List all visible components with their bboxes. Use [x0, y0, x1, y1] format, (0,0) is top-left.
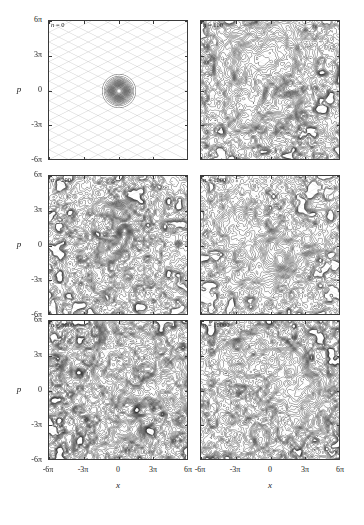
tick-mark — [201, 312, 202, 315]
tick-mark — [153, 457, 154, 460]
tick-mark — [271, 312, 272, 315]
panel-label-value: 200 — [61, 176, 71, 183]
tick-mark — [49, 280, 52, 281]
x-tick-label: 6π — [325, 465, 355, 474]
panel-label-value: 1000 — [213, 176, 226, 183]
tick-mark — [305, 157, 306, 160]
contour-plot-canvas — [49, 176, 188, 315]
tick-mark — [185, 211, 188, 212]
y-axis-label: p — [10, 239, 28, 249]
x-tick-label: 3π — [290, 465, 320, 474]
panel-n-100: n = 100 — [200, 20, 340, 160]
tick-mark — [119, 457, 120, 460]
tick-mark — [201, 157, 202, 160]
tick-mark — [201, 457, 202, 460]
tick-mark — [201, 211, 204, 212]
tick-mark — [84, 176, 85, 179]
tick-mark — [337, 391, 340, 392]
tick-mark — [119, 321, 120, 324]
tick-mark — [236, 21, 237, 24]
tick-mark — [49, 356, 52, 357]
tick-mark — [84, 457, 85, 460]
tick-mark — [236, 176, 237, 179]
tick-mark — [337, 176, 340, 177]
tick-mark — [185, 56, 188, 57]
tick-mark — [201, 56, 204, 57]
tick-mark — [201, 280, 204, 281]
tick-mark — [84, 21, 85, 24]
tick-mark — [271, 321, 272, 324]
y-tick-label: 6π — [8, 15, 42, 24]
x-tick-label: 0 — [255, 465, 285, 474]
tick-mark — [185, 91, 188, 92]
tick-mark — [337, 280, 340, 281]
tick-mark — [337, 246, 340, 247]
y-tick-label: 3π — [8, 205, 42, 214]
tick-mark — [153, 21, 154, 24]
tick-mark — [185, 21, 188, 22]
tick-mark — [185, 321, 188, 322]
tick-mark — [236, 312, 237, 315]
y-tick-label: -3π — [8, 420, 42, 429]
y-tick-label: -6π — [8, 155, 42, 164]
y-axis-label: p — [10, 84, 28, 94]
tick-mark — [84, 157, 85, 160]
x-axis-label: x — [108, 480, 128, 490]
tick-mark — [337, 91, 340, 92]
tick-mark — [119, 176, 120, 179]
figure-root: n = 0n = 100n = 200n = 1000n = 5000n = 1… — [0, 0, 364, 525]
tick-mark — [337, 56, 340, 57]
tick-mark — [185, 425, 188, 426]
tick-mark — [49, 176, 50, 179]
contour-plot-canvas — [201, 21, 340, 160]
tick-mark — [236, 321, 237, 324]
panel-label-value: 100 — [213, 21, 223, 28]
tick-mark — [271, 457, 272, 460]
tick-mark — [49, 312, 50, 315]
tick-mark — [185, 246, 188, 247]
tick-mark — [49, 211, 52, 212]
tick-mark — [153, 157, 154, 160]
x-axis-label: x — [260, 480, 280, 490]
panel-n-200: n = 200 — [48, 175, 188, 315]
tick-mark — [153, 312, 154, 315]
y-tick-label: -3π — [8, 120, 42, 129]
panel-label-value: 0 — [61, 21, 64, 28]
tick-mark — [305, 321, 306, 324]
panel-label: n = 200 — [51, 176, 71, 183]
tick-mark — [236, 457, 237, 460]
tick-mark — [201, 91, 204, 92]
tick-mark — [49, 125, 52, 126]
x-tick-label: -6π — [33, 465, 63, 474]
tick-mark — [49, 91, 52, 92]
tick-mark — [49, 157, 50, 160]
tick-mark — [185, 356, 188, 357]
tick-mark — [84, 312, 85, 315]
tick-mark — [119, 312, 120, 315]
tick-mark — [49, 457, 50, 460]
tick-mark — [337, 321, 340, 322]
tick-mark — [49, 425, 52, 426]
panel-n-10000: n = 10000 — [200, 320, 340, 460]
tick-mark — [119, 157, 120, 160]
tick-mark — [185, 280, 188, 281]
tick-mark — [153, 176, 154, 179]
panel-label: n = 0 — [51, 21, 64, 28]
tick-mark — [236, 157, 237, 160]
panel-label-value: 5000 — [61, 321, 74, 328]
tick-mark — [185, 125, 188, 126]
tick-mark — [271, 157, 272, 160]
x-tick-label: 0 — [103, 465, 133, 474]
tick-mark — [49, 246, 52, 247]
tick-mark — [201, 246, 204, 247]
y-tick-label: 3π — [8, 50, 42, 59]
tick-mark — [337, 21, 340, 22]
contour-plot-canvas — [201, 321, 340, 460]
tick-mark — [271, 176, 272, 179]
tick-mark — [201, 391, 204, 392]
tick-mark — [84, 321, 85, 324]
x-tick-label: 3π — [138, 465, 168, 474]
tick-mark — [49, 391, 52, 392]
panel-n-0: n = 0 — [48, 20, 188, 160]
tick-mark — [337, 125, 340, 126]
